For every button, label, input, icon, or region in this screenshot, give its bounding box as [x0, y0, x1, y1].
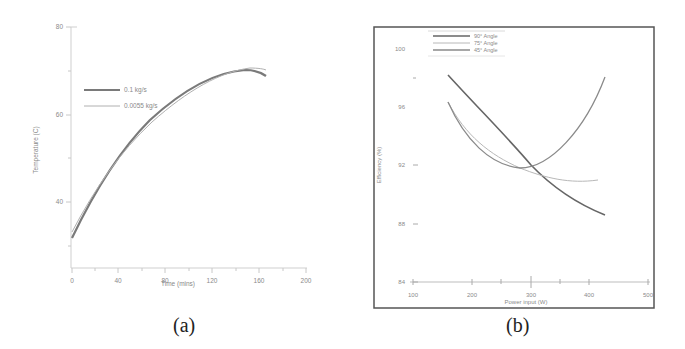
chart-b-frame	[374, 27, 654, 308]
chart-b-xtick: 500	[643, 292, 654, 298]
chart-a-legend: 0.1 kg/s 0.0055 kg/s	[84, 86, 158, 110]
chart-b-ytick: 92	[398, 162, 405, 168]
series-45deg-line	[448, 77, 605, 168]
caption-b: (b)	[506, 314, 529, 337]
chart-a-xtick: 120	[207, 277, 218, 284]
legend-label: 0.0055 kg/s	[124, 102, 158, 110]
legend-label: 75° Angle	[474, 40, 498, 46]
chart-a-xtick: 40	[114, 277, 122, 284]
chart-b-xtick: 100	[408, 292, 419, 298]
chart-b-xtick: 300	[526, 292, 537, 298]
chart-a-svg: 80 60 40 0 40 80 120 160 200 Time (mins)…	[0, 0, 340, 300]
series-0.1-kgs-line	[72, 70, 266, 238]
chart-b-ytick: 96	[398, 104, 405, 110]
chart-b-ytick: 100	[395, 46, 406, 52]
series-0.0055-kgs-line	[72, 68, 266, 232]
series-90deg-line	[448, 75, 605, 215]
chart-b-xtick: 200	[467, 292, 478, 298]
chart-a-xlabel: Time (mins)	[161, 280, 195, 288]
chart-a-ytick: 40	[56, 198, 64, 205]
chart-b-xtick: 400	[584, 292, 595, 298]
legend-label: 90° Angle	[474, 33, 498, 39]
chart-a-xtick: 200	[301, 277, 312, 284]
legend-label: 0.1 kg/s	[124, 86, 148, 94]
chart-b-ytick: 88	[398, 221, 405, 227]
series-75deg-line	[448, 102, 598, 181]
chart-a-ytick: 60	[56, 111, 64, 118]
chart-b-xlabel: Power input (W)	[504, 299, 547, 305]
chart-a-ylabel: Temperature (C)	[32, 126, 40, 173]
chart-a-xtick: 160	[254, 277, 265, 284]
chart-b-ylabel: Efficiency (%)	[376, 147, 382, 184]
legend-label: 45° Angle	[474, 47, 498, 53]
chart-b-legend: 90° Angle 75° Angle 45° Angle	[428, 31, 505, 56]
chart-a-ytick: 80	[56, 23, 64, 30]
chart-a: 80 60 40 0 40 80 120 160 200 Time (mins)…	[0, 0, 340, 300]
chart-b-ytick: 84	[398, 279, 405, 285]
caption-a: (a)	[173, 314, 195, 337]
chart-a-xtick: 0	[70, 277, 74, 284]
